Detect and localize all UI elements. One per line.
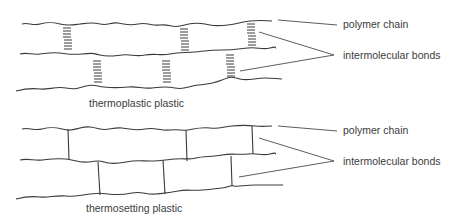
intermolecular-bond — [63, 28, 72, 49]
polymer-chain-bottom-2 — [20, 153, 276, 163]
leader-line-bond-lower — [239, 161, 334, 177]
intermolecular-bond — [180, 29, 189, 50]
polymer-chain-top-2 — [20, 47, 276, 56]
cross-link-bond — [252, 126, 253, 154]
leader-line-bond-lower — [240, 55, 334, 71]
intermolecular-bond — [247, 24, 256, 45]
leader-line-polymer-chain — [278, 20, 337, 25]
intermolecular-bonds-label: intermolecular bonds — [343, 49, 440, 61]
polymer-chain-top-1 — [22, 20, 272, 26]
leader-line-bond-upper — [259, 32, 334, 55]
leader-line-polymer-chain — [278, 126, 337, 131]
polymer-chain-label: polymer chain — [343, 124, 409, 136]
polymer-bonding-diagram: polymer chain intermolecular bonds therm… — [0, 0, 463, 224]
thermoplastic-caption: thermoplastic plastic — [89, 97, 184, 109]
intermolecular-bond — [162, 61, 171, 82]
leader-line-bond-upper — [259, 138, 334, 161]
intermolecular-bonds-label: intermolecular bonds — [343, 155, 440, 167]
cross-link-bond — [98, 162, 100, 195]
polymer-chain-top-3 — [16, 77, 282, 91]
thermoplastic-diagram: polymer chain intermolecular bonds therm… — [16, 18, 440, 109]
cross-link-bond — [231, 156, 232, 186]
intermolecular-bond — [93, 61, 102, 82]
intermolecular-bond — [226, 55, 235, 76]
polymer-chain-bottom-3 — [16, 185, 283, 199]
cross-link-bond — [68, 129, 69, 160]
thermosetting-caption: thermosetting plastic — [86, 202, 182, 214]
polymer-chain-bottom-1 — [22, 125, 272, 130]
polymer-chain-label: polymer chain — [343, 18, 409, 30]
cross-link-bond — [186, 130, 187, 161]
thermosetting-diagram: polymer chain intermolecular bonds therm… — [16, 124, 440, 214]
cross-link-bond — [163, 160, 165, 194]
